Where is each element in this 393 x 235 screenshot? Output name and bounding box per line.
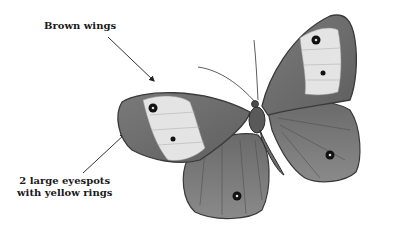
arrow-brown-wings: [108, 37, 154, 81]
eyespot-left-forewing-small: [171, 137, 176, 142]
eyespot-left-forewing-large: [149, 104, 158, 113]
label-eyespots-line1: 2 large eyespots: [17, 175, 112, 187]
label-brown-wings: Brown wings: [44, 20, 116, 32]
antennae: [198, 40, 258, 102]
eyespot-right-hindwing: [326, 151, 335, 160]
label-eyespots-line2: with yellow rings: [17, 187, 112, 199]
eyespot-left-hindwing: [233, 192, 242, 201]
eyespot-right-forewing-large: [312, 36, 321, 45]
butterfly-illustration: [0, 0, 393, 235]
right-hindwing: [268, 101, 360, 182]
eyespot-right-forewing-small: [321, 71, 326, 76]
right-forewing: [262, 15, 356, 115]
arrow-eyespots: [83, 134, 125, 173]
label-eyespots: 2 large eyespots with yellow rings: [17, 175, 112, 199]
butterfly-figure: Brown wings 2 large eyespots with yellow…: [0, 0, 393, 235]
